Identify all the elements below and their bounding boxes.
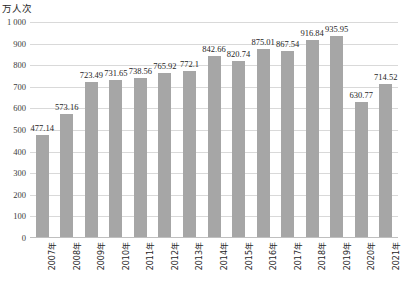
y-axis-tick: 100 (0, 212, 26, 221)
y-axis-tick: 0 (0, 234, 26, 243)
data-label: 867.54 (276, 40, 299, 49)
x-axis-tick-labels: 2007年2008年2009年2010年2011年2012年2013年2014年… (30, 240, 398, 289)
y-axis-tick: 800 (0, 61, 26, 70)
x-axis-tick: 2013年 (193, 242, 204, 270)
y-axis-tick: 700 (0, 83, 26, 92)
x-axis-tick: 2016年 (267, 242, 278, 270)
data-label: 765.92 (153, 62, 176, 71)
x-axis-tick: 2007年 (46, 242, 57, 270)
data-label: 935.95 (325, 25, 348, 34)
x-axis-tick: 2021年 (390, 242, 401, 270)
x-axis-tick: 2014年 (218, 242, 229, 270)
y-axis-tick: 600 (0, 104, 26, 113)
x-axis-tick: 2008年 (71, 242, 82, 270)
data-label: 772.1 (180, 60, 199, 69)
y-axis-tick: 500 (0, 126, 26, 135)
x-axis-tick: 2012年 (169, 242, 180, 270)
data-label: 738.56 (129, 67, 152, 76)
x-axis-tick: 2011年 (144, 242, 155, 270)
x-axis-tick: 2009年 (95, 242, 106, 270)
x-axis-tick: 2017年 (292, 242, 303, 270)
x-axis-tick: 2020年 (365, 242, 376, 270)
y-axis-tick: 400 (0, 148, 26, 157)
data-label: 731.65 (104, 69, 127, 78)
y-axis-tick: 300 (0, 169, 26, 178)
data-label: 714.52 (374, 73, 397, 82)
bar-chart: 万人次 1 0009008007006005004003002001000 47… (0, 0, 411, 289)
data-labels-layer: 477.14573.16723.49731.65738.56765.92772.… (30, 0, 398, 240)
x-axis-tick: 2019年 (341, 242, 352, 270)
x-axis-tick: 2015年 (243, 242, 254, 270)
y-axis-tick: 200 (0, 191, 26, 200)
data-label: 916.84 (300, 29, 323, 38)
x-axis-tick: 2018年 (316, 242, 327, 270)
y-axis-tick: 900 (0, 40, 26, 49)
y-axis-tick: 1 000 (0, 18, 26, 27)
data-label: 820.74 (227, 50, 250, 59)
data-label: 573.16 (55, 103, 78, 112)
data-label: 477.14 (31, 124, 54, 133)
data-label: 875.01 (251, 38, 274, 47)
data-label: 842.66 (202, 45, 225, 54)
data-label: 723.49 (80, 71, 103, 80)
y-axis-unit-caption: 万人次 (2, 1, 32, 15)
x-axis-tick: 2010年 (120, 242, 131, 270)
data-label: 630.77 (350, 91, 373, 100)
